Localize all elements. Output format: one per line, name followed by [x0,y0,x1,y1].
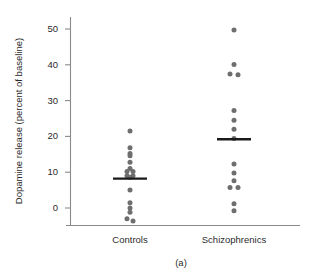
y-tick-label: 0 [53,202,58,213]
x-category-label-controls: Controls [112,234,148,245]
y-axis-label: Dopamine release (percent of baseline) [13,38,24,204]
figure-caption: (a) [175,257,187,268]
data-point [125,169,130,174]
data-point [236,72,241,77]
data-point [232,118,237,123]
data-point [128,206,133,211]
data-point [131,218,136,223]
data-point [228,185,233,190]
data-point [236,185,241,190]
data-point [232,201,237,206]
data-point [131,169,136,174]
data-point [232,208,237,213]
data-point [128,210,133,215]
data-point [228,72,233,77]
data-points-layer [125,28,241,224]
data-point [128,188,133,193]
data-point [232,161,237,166]
data-point [232,178,237,183]
data-point [125,216,130,221]
data-point [232,170,237,175]
data-point [128,153,133,158]
y-tick-label: 50 [47,23,58,34]
y-tick-label: 30 [47,95,58,106]
data-point [128,200,133,205]
data-point [232,28,237,33]
y-tick-group: 01020304050 [47,23,70,213]
data-point [232,62,237,67]
y-tick-label: 10 [47,166,58,177]
data-point [128,145,133,150]
figure-panel: 01020304050 Dopamine release (percent of… [0,0,313,273]
y-tick-label: 20 [47,130,58,141]
data-point [232,108,237,113]
dopamine-release-scatter-plot: 01020304050 Dopamine release (percent of… [0,0,313,273]
x-category-label-schizophrenics: Schizophrenics [202,234,267,245]
data-point [232,127,237,132]
data-point [128,160,133,165]
data-point [128,129,133,134]
y-tick-label: 40 [47,59,58,70]
